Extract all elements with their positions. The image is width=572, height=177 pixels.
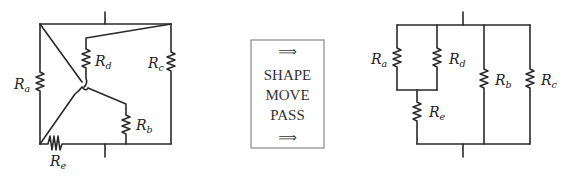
- label-ra: Ra: [13, 76, 31, 94]
- transform-box: ⟹ SHAPE MOVE PASS ⟹: [251, 40, 324, 148]
- label-rd: Rd: [448, 51, 466, 69]
- label-rb: Rb: [494, 72, 512, 90]
- label-re: Re: [428, 104, 446, 122]
- box-line-move: MOVE: [265, 87, 309, 103]
- label-rc: Rc: [540, 72, 558, 90]
- label-rd: Rd: [94, 53, 112, 71]
- label-ra: Ra: [370, 51, 388, 69]
- label-rb: Rb: [135, 117, 153, 135]
- resistor-ra-branch: [393, 25, 401, 90]
- resistor-rb-branch: [480, 25, 488, 144]
- arrow-bottom-icon: ⟹: [278, 130, 297, 145]
- box-line-shape: SHAPE: [264, 67, 312, 83]
- box-line-pass: PASS: [270, 107, 304, 123]
- resistor-rb-branch: [88, 88, 130, 144]
- resistor-re-branch: [413, 90, 421, 144]
- label-rc: Rc: [147, 55, 165, 73]
- circuit-transformation-diagram: Ra Rd Rc Rb Re ⟹ SHAPE MOVE PASS ⟹ Ra Rd…: [0, 0, 572, 177]
- diagonal-wire-top: [40, 24, 82, 82]
- right-circuit: Ra Rd Re Rb Rc: [370, 12, 558, 157]
- resistor-ra-branch: [36, 24, 44, 144]
- resistor-rc-branch: [526, 25, 534, 144]
- resistor-rd-branch: [433, 25, 441, 90]
- resistor-rc-branch: [167, 24, 175, 144]
- arrow-top-icon: ⟹: [278, 44, 297, 59]
- diagonal-wire-bottom: [40, 87, 88, 144]
- label-re: Re: [49, 153, 67, 171]
- left-circuit: Ra Rd Rc Rb Re: [13, 12, 175, 171]
